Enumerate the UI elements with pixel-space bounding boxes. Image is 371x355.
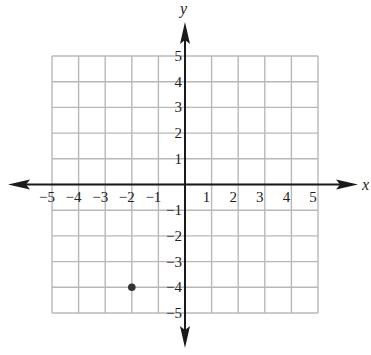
y-tick-label: 2: [175, 125, 183, 141]
x-tick-label: 2: [229, 189, 237, 205]
x-tick-label: −3: [92, 189, 108, 205]
x-tick-label: −1: [145, 189, 161, 205]
x-tick-label: −4: [66, 189, 82, 205]
data-point: [128, 284, 136, 292]
plot-svg: −5−4−3−2−112345−5−4−3−2−112345 x y: [0, 0, 371, 355]
x-tick-label: −5: [39, 189, 55, 205]
y-tick-label: −1: [166, 202, 182, 218]
y-tick-label: 5: [175, 48, 183, 64]
y-tick-label: −5: [166, 305, 182, 321]
y-tick-label: −3: [166, 254, 182, 270]
data-points: [128, 284, 136, 292]
y-tick-label: −4: [166, 279, 182, 295]
x-tick-label: −2: [119, 189, 135, 205]
x-tick-label: 5: [309, 189, 317, 205]
x-tick-label: 4: [283, 189, 291, 205]
y-tick-label: 1: [175, 151, 183, 167]
y-axis-label: y: [178, 0, 188, 18]
coordinate-plane: −5−4−3−2−112345−5−4−3−2−112345 x y: [0, 0, 371, 355]
y-tick-label: 3: [175, 99, 183, 115]
x-tick-label: 1: [203, 189, 211, 205]
y-tick-label: −2: [166, 228, 182, 244]
axes: [8, 22, 358, 348]
x-axis-label: x: [361, 176, 369, 193]
x-tick-label: 3: [256, 189, 264, 205]
y-tick-label: 4: [175, 74, 183, 90]
